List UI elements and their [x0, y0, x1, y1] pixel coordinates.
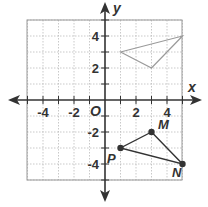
label-n: N [172, 165, 182, 180]
x-tick-label: 2 [132, 105, 139, 120]
y-tick-label: -2 [87, 125, 99, 140]
x-tick-label: -4 [37, 105, 49, 120]
x-tick-label: -2 [68, 105, 80, 120]
vertex-p-dot [117, 145, 123, 151]
origin-label: O [90, 103, 101, 119]
vertex-m-dot [148, 129, 154, 135]
x-axis-label: x [187, 79, 197, 95]
label-m: M [158, 117, 170, 132]
y-tick-label: -4 [87, 157, 99, 172]
y-axis-label: y [112, 0, 122, 16]
label-p: P [107, 151, 116, 166]
y-tick-label: 2 [92, 61, 99, 76]
y-tick-label: 4 [92, 29, 100, 44]
coordinate-plane: -4-22442-2-4 x y O M N P [0, 0, 208, 207]
